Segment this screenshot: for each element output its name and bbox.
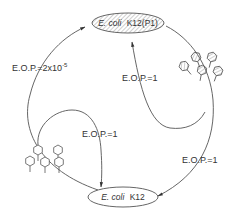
edge-right-outer	[158, 26, 213, 196]
svg-text:E. coli K12(P1): E. coli K12(P1)	[98, 18, 158, 28]
label-left-inner: E.O.P.=1	[82, 129, 118, 139]
phage-icon	[26, 156, 35, 172]
lifecycle-diagram: E. coli K12(P1) E. coli K12 E.O.P.=2x10-…	[0, 0, 234, 219]
phage-icon	[177, 59, 194, 77]
phage-icon	[55, 157, 64, 173]
node-top-species: E. coli	[98, 18, 122, 28]
label-left-outer: E.O.P.=2x10-5	[12, 62, 68, 73]
phage-group-hatched	[177, 51, 223, 83]
label-right-inner: E.O.P.=1	[122, 73, 158, 83]
node-top-strain: K12(P1)	[127, 18, 158, 28]
phage-icon	[196, 64, 207, 81]
edge-left-inner	[38, 110, 102, 187]
node-bottom-strain: K12	[130, 192, 145, 202]
phage-icon	[34, 145, 43, 161]
phage-icon	[205, 51, 217, 69]
edge-left-outer	[28, 27, 98, 190]
label-right-outer: E.O.P.=1	[182, 155, 218, 165]
node-ecoli-k12: E. coli K12	[88, 187, 158, 207]
phage-icon	[210, 65, 224, 83]
node-bottom-species: E. coli	[101, 192, 125, 202]
node-ecoli-k12-p1: E. coli K12(P1)	[92, 13, 164, 33]
phage-icon	[41, 157, 50, 173]
svg-text:E. coli K12: E. coli K12	[101, 192, 145, 202]
